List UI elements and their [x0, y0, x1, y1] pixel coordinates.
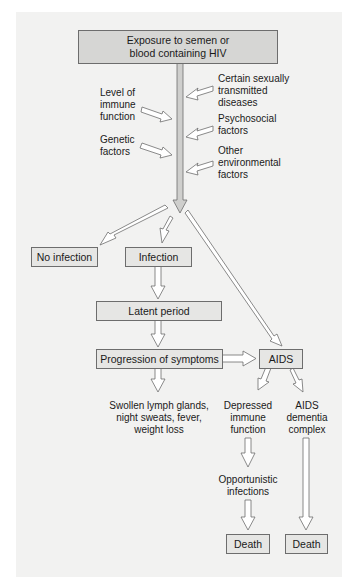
no-infection-box: No infection [31, 247, 98, 267]
arrow-dementia-to-death [299, 438, 313, 530]
factor-immune-function: Level of immune function [100, 87, 136, 123]
factor-environmental: Other environmental factors [218, 145, 281, 181]
exposure-box: Exposure to semen or blood containing HI… [78, 30, 278, 64]
arrow-latent-to-progression [151, 320, 165, 347]
death-box-right: Death [285, 534, 328, 554]
arrow-depressed-to-opportunistic [241, 438, 255, 467]
arrow-progression-to-symptoms [151, 368, 165, 392]
latent-period-box: Latent period [96, 301, 222, 321]
main-stem-arrow [173, 63, 187, 213]
death-box-left: Death [226, 534, 270, 554]
arrow-immune-function [141, 107, 172, 122]
flow-arrows [0, 0, 348, 584]
depressed-immune-text: Depressed immune function [218, 400, 278, 436]
infection-box: Infection [125, 247, 192, 267]
progression-box: Progression of symptoms [96, 349, 223, 369]
arrow-opportunistic-to-death [241, 500, 255, 530]
opportunistic-text: Opportunistic infections [213, 474, 283, 498]
arrow-aids-to-dementia [290, 368, 303, 392]
arrow-to-aids [185, 210, 282, 346]
exposure-line-1: Exposure to semen or [127, 34, 230, 47]
aids-box: AIDS [259, 349, 303, 369]
aids-dementia-text: AIDS dementia complex [281, 400, 333, 436]
arrow-to-infection [160, 216, 173, 243]
factor-std: Certain sexually transmitted diseases [218, 73, 289, 109]
factor-psychosocial: Psychosocial factors [218, 113, 276, 137]
arrow-infection-to-latent [151, 266, 165, 299]
arrow-to-no-infection [100, 205, 168, 245]
exposure-line-2: blood containing HIV [130, 47, 227, 60]
arrow-std [186, 86, 213, 100]
arrow-aids-to-depressed [258, 367, 271, 390]
symptoms-text: Swollen lymph glands, night sweats, feve… [104, 400, 214, 436]
arrow-genetic-factors [140, 143, 172, 158]
factor-genetic: Genetic factors [100, 134, 134, 158]
arrow-progression-to-aids [222, 351, 256, 366]
arrow-environmental [186, 161, 213, 175]
arrow-psychosocial [186, 126, 213, 140]
